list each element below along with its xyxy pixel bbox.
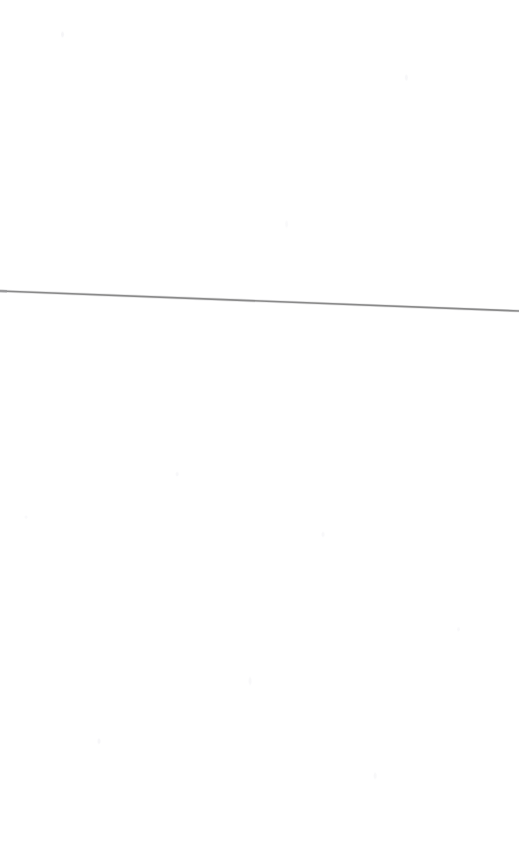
horizontal-rule-stroke <box>0 291 519 311</box>
horizontal-rule-svg <box>0 0 521 862</box>
horizontal-rule-halo <box>0 291 519 311</box>
scanned-page <box>0 0 521 862</box>
scan-speckle-artifacts <box>0 0 521 862</box>
horizontal-rule-layer <box>0 0 521 862</box>
